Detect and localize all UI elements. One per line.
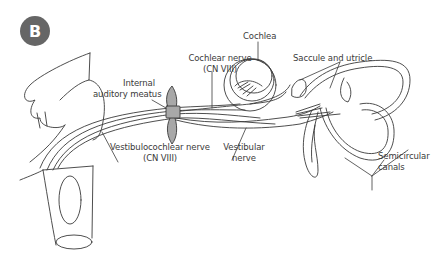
diagram-canvas: B Cochlea Cochlear nerve (CN VIII) Saccu…: [0, 0, 441, 262]
label-internal-meatus: Internal auditory meatus: [93, 78, 155, 99]
label-internal-meatus-line1: Internal: [93, 78, 155, 89]
label-cochlear-nerve-line1: Cochlear nerve: [188, 53, 252, 64]
panel-label-badge: B: [20, 16, 50, 46]
leader-lines: [102, 42, 408, 190]
label-semicircular-canals: Semicircular canals: [378, 151, 430, 172]
label-cochlea: Cochlea: [243, 31, 276, 42]
internal-meatus-icon: [166, 86, 180, 144]
label-internal-meatus-line2: auditory meatus: [93, 89, 155, 100]
label-semicircular-canals-line2: canals: [378, 162, 430, 173]
label-vestibular-nerve-line2: nerve: [222, 153, 266, 164]
ear-nerve-illustration: [0, 0, 441, 262]
label-saccule-utricle: Saccule and utricle: [293, 53, 372, 64]
label-cochlear-nerve: Cochlear nerve (CN VIII): [188, 53, 252, 74]
label-cochlear-nerve-line2: (CN VIII): [188, 64, 252, 75]
label-semicircular-canals-line1: Semicircular: [378, 151, 430, 162]
head-outline-icon: [20, 53, 104, 249]
label-vestibulocochlear-nerve-line2: (CN VIII): [110, 153, 210, 164]
label-vestibular-nerve-line1: Vestibular: [222, 142, 266, 153]
label-vestibulocochlear-nerve: Vestibulocochlear nerve (CN VIII): [110, 142, 210, 163]
label-vestibular-nerve: Vestibular nerve: [222, 142, 266, 163]
label-vestibulocochlear-nerve-line1: Vestibulocochlear nerve: [110, 142, 210, 153]
